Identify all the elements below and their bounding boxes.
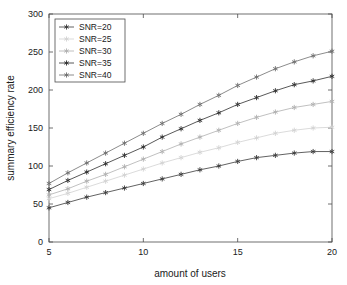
data-point-marker [47, 205, 52, 210]
data-point-marker [198, 118, 203, 123]
data-point-marker [273, 88, 278, 93]
legend-label-3: SNR=35 [79, 58, 112, 68]
data-point-marker [66, 191, 71, 196]
data-point-marker [235, 83, 240, 88]
data-point-marker [47, 187, 52, 192]
data-point-marker [66, 200, 71, 205]
data-point-marker [66, 178, 71, 183]
data-point-marker [235, 102, 240, 107]
data-point-marker [273, 66, 278, 71]
series-snr-30 [47, 99, 335, 198]
data-point-marker [160, 149, 165, 154]
data-point-marker [84, 169, 89, 174]
data-point-marker [122, 164, 127, 169]
legend-label-1: SNR=25 [79, 34, 112, 44]
series-line [49, 101, 332, 194]
data-point-marker [179, 141, 184, 146]
legend-label-2: SNR=30 [79, 46, 112, 56]
data-point-marker [84, 179, 89, 184]
y-axis-title: summary efficiency rate [5, 75, 16, 181]
data-point-marker [141, 144, 146, 149]
data-point-marker [179, 155, 184, 160]
data-point-marker [122, 173, 127, 178]
data-point-marker [122, 153, 127, 158]
data-point-marker [160, 135, 165, 140]
data-point-marker [179, 126, 184, 131]
data-point-marker [47, 192, 52, 197]
x-tick-label: 20 [327, 247, 337, 257]
y-tick-label: 150 [28, 123, 43, 133]
data-point-marker [84, 160, 89, 165]
x-tick-label: 10 [138, 247, 148, 257]
x-tick-label: 5 [46, 247, 51, 257]
data-point-marker [141, 157, 146, 162]
x-axis-title: amount of users [154, 268, 226, 279]
data-point-marker [103, 161, 108, 166]
data-point-marker [141, 131, 146, 136]
series-line [49, 127, 332, 198]
y-tick-label: 250 [28, 47, 43, 57]
data-point-marker [179, 112, 184, 117]
data-point-marker [254, 74, 259, 79]
y-tick-label: 200 [28, 85, 43, 95]
data-point-marker [198, 102, 203, 107]
y-tick-label: 0 [38, 237, 43, 247]
data-point-marker [84, 185, 89, 190]
chart-legend: SNR=20SNR=25SNR=30SNR=35SNR=40 [55, 19, 125, 82]
data-point-marker [292, 59, 297, 64]
series-snr-25 [47, 125, 335, 202]
y-tick-label: 300 [28, 9, 43, 19]
data-point-marker [235, 121, 240, 126]
legend-label-0: SNR=20 [79, 22, 112, 32]
data-point-marker [66, 186, 71, 191]
data-point-marker [66, 170, 71, 175]
chart-figure: 050100150200250300 5101520 SNR=20SNR=25S… [0, 0, 347, 285]
data-point-marker [217, 93, 222, 98]
x-tick-label: 15 [233, 247, 243, 257]
y-tick-label: 100 [28, 161, 43, 171]
line-chart: 050100150200250300 5101520 SNR=20SNR=25S… [0, 0, 347, 285]
data-point-marker [103, 179, 108, 184]
data-point-marker [198, 135, 203, 140]
legend-label-4: SNR=40 [79, 70, 112, 80]
y-tick-label: 50 [33, 199, 43, 209]
series-snr-35 [47, 74, 335, 192]
data-point-marker [254, 115, 259, 120]
data-point-marker [122, 141, 127, 146]
data-point-marker [254, 95, 259, 100]
data-point-marker [103, 172, 108, 177]
data-point-marker [217, 128, 222, 133]
data-point-marker [141, 166, 146, 171]
data-point-marker [103, 150, 108, 155]
data-point-marker [160, 160, 165, 165]
series-line [49, 76, 332, 189]
data-point-marker [47, 181, 52, 186]
data-point-marker [217, 110, 222, 115]
data-point-marker [160, 121, 165, 126]
